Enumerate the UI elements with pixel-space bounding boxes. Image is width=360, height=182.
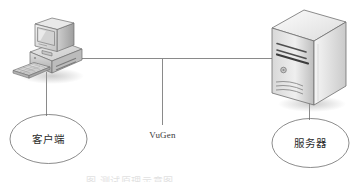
desktop-computer-icon <box>13 18 84 84</box>
server-node-group: 服务器 <box>272 119 349 168</box>
client-label: 客户端 <box>32 133 66 145</box>
tower-power-button-inner <box>282 69 284 71</box>
vugen-label: VuGen <box>149 130 176 140</box>
server-tower-icon <box>272 10 346 112</box>
tower-front-face <box>272 28 314 105</box>
topology-diagram-svg: 客户端 服务器 VuGen <box>0 0 360 182</box>
diagram-canvas: 客户端 服务器 VuGen 图 测试原理示意图 <box>0 0 360 182</box>
client-node-group: 客户端 <box>10 115 87 164</box>
server-label: 服务器 <box>294 137 328 149</box>
case-power-led <box>34 57 36 59</box>
connection-lines <box>47 59 311 126</box>
